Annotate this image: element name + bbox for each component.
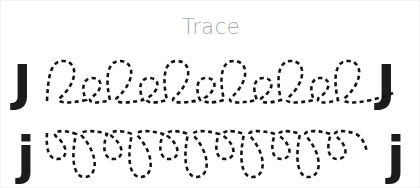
trace-stroke [47,131,367,177]
lowercase-trace-guide [1,1,420,188]
trace-worksheet: Trace J J j j [0,0,420,188]
